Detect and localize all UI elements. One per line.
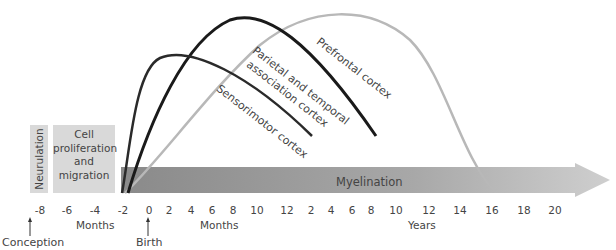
tick: 20 <box>548 204 561 216</box>
tick: 2 <box>308 204 315 216</box>
tick: 16 <box>485 204 498 216</box>
tick: 12 <box>280 204 293 216</box>
years-label: Years <box>408 219 436 231</box>
tick: 2 <box>166 204 173 216</box>
tick: 8 <box>368 204 375 216</box>
months-postnatal-label: Months <box>200 219 238 231</box>
tick: -6 <box>62 204 72 216</box>
tick: 6 <box>209 204 216 216</box>
tick: 12 <box>422 204 435 216</box>
myelination-label: Myelination <box>336 175 403 189</box>
tick: -2 <box>118 204 128 216</box>
tick: 6 <box>349 204 356 216</box>
cell-proliferation-label: Cell proliferation and migration <box>53 128 115 182</box>
tick: -4 <box>90 204 100 216</box>
months-prenatal-label: Months <box>76 219 114 231</box>
conception-label: Conception <box>2 236 64 249</box>
tick: 18 <box>517 204 530 216</box>
birth-label: Birth <box>136 236 162 249</box>
neurulation-label: Neurulation <box>33 128 45 189</box>
tick: 10 <box>389 204 402 216</box>
tick: 10 <box>250 204 263 216</box>
tick: 14 <box>453 204 466 216</box>
tick: 8 <box>230 204 237 216</box>
tick: 0 <box>146 204 153 216</box>
tick: 4 <box>188 204 195 216</box>
tick: -8 <box>35 204 45 216</box>
tick: 4 <box>328 204 335 216</box>
